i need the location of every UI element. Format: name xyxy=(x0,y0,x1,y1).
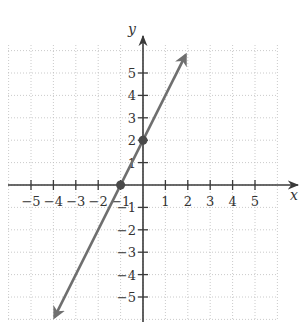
y-tick-label: −1 xyxy=(117,200,136,215)
y-tick-label: −3 xyxy=(117,245,136,260)
x-tick-label: 3 xyxy=(206,194,214,209)
x-axis-label: x xyxy=(290,187,298,203)
axes xyxy=(8,36,298,322)
coordinate-plane: −5−4−3−2−112345−5−4−3−2−112345 x y xyxy=(0,0,305,332)
x-tick-label: −2 xyxy=(89,194,108,209)
x-tick-label: −5 xyxy=(21,194,40,209)
y-tick-label: −5 xyxy=(117,290,136,305)
y-tick-label: 5 xyxy=(128,66,136,81)
x-tick-label: 1 xyxy=(161,194,169,209)
y-tick-label: −4 xyxy=(117,268,136,283)
y-tick-label: −2 xyxy=(117,223,136,238)
x-tick-label: 5 xyxy=(251,194,259,209)
y-tick-label: 4 xyxy=(128,88,136,103)
x-tick-label: −3 xyxy=(66,194,85,209)
data-point xyxy=(116,181,125,190)
y-tick-label: 3 xyxy=(128,111,136,126)
data-point xyxy=(139,136,148,145)
y-axis-label: y xyxy=(127,21,137,37)
x-tick-label: 4 xyxy=(228,194,236,209)
x-tick-label: −4 xyxy=(44,194,63,209)
y-tick-label: 2 xyxy=(128,133,136,148)
x-tick-label: 2 xyxy=(184,194,192,209)
